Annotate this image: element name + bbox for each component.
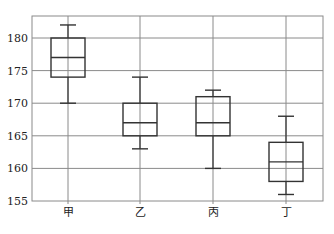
x-category-label: 甲 [63, 206, 74, 219]
x-category-label: 丁 [281, 206, 292, 219]
plot-frame [32, 16, 323, 201]
x-category-label: 乙 [135, 206, 146, 219]
x-category-label: 丙 [208, 206, 219, 219]
y-tick-label: 175 [7, 65, 28, 78]
x-axis-labels: 甲乙丙丁 [63, 206, 292, 219]
y-tick-label: 155 [7, 195, 28, 208]
y-tick-label: 165 [7, 130, 28, 143]
y-tick-label: 170 [7, 97, 28, 110]
y-tick-label: 180 [7, 32, 28, 45]
box-plot-chart: 155160165170175180 甲乙丙丁 [0, 0, 334, 234]
y-axis-ticks: 155160165170175180 [7, 32, 28, 208]
grid-lines [32, 16, 323, 204]
y-tick-label: 160 [7, 162, 28, 175]
boxes [51, 25, 303, 195]
